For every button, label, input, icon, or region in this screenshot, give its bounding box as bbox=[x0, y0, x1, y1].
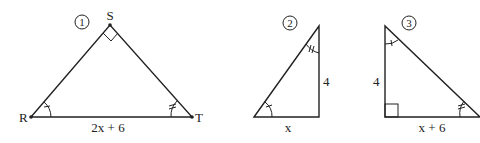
side-label-3-base: x + 6 bbox=[419, 120, 446, 135]
angle-arc-r bbox=[44, 102, 51, 117]
vertex-s-dot bbox=[108, 23, 112, 27]
triangle-2: 2 4 x bbox=[254, 16, 330, 135]
figure-badge-2: 2 bbox=[287, 17, 293, 29]
angle-arc-t bbox=[171, 101, 177, 117]
angle-tick-3-top bbox=[391, 40, 392, 46]
side-label-3-vertical: 4 bbox=[373, 74, 380, 89]
vertex-t-dot bbox=[190, 115, 194, 119]
angle-tick-r bbox=[44, 106, 50, 107]
triangles-diagram: 1 S R T 2x + 6 2 4 x 3 bbox=[0, 0, 480, 143]
triangle-3: 3 4 x + 6 bbox=[373, 16, 480, 135]
triangle-3-edges bbox=[385, 26, 480, 117]
right-angle-marker-s bbox=[103, 33, 118, 41]
angle-tick-t-1 bbox=[169, 104, 176, 106]
angle-arc-2-bottom-left bbox=[265, 102, 272, 117]
triangle-1-edges bbox=[31, 25, 192, 117]
figure-badge-1: 1 bbox=[79, 16, 85, 28]
right-angle-marker-3 bbox=[385, 104, 398, 117]
figure-badge-3: 3 bbox=[406, 17, 412, 29]
side-label-rt: 2x + 6 bbox=[91, 120, 125, 135]
vertex-label-t: T bbox=[195, 110, 203, 125]
triangle-2-edges bbox=[254, 26, 319, 117]
side-label-2-vertical: 4 bbox=[323, 74, 330, 89]
vertex-label-s: S bbox=[106, 8, 113, 23]
triangle-1: 1 S R T 2x + 6 bbox=[19, 8, 203, 135]
angle-tick-2-top-2 bbox=[312, 46, 314, 53]
vertex-r-dot bbox=[29, 115, 33, 119]
vertex-label-r: R bbox=[19, 110, 28, 125]
angle-tick-3-bottom-right-2 bbox=[458, 107, 465, 109]
angle-arc-3-bottom-right bbox=[460, 101, 464, 117]
side-label-2-base: x bbox=[285, 120, 292, 135]
